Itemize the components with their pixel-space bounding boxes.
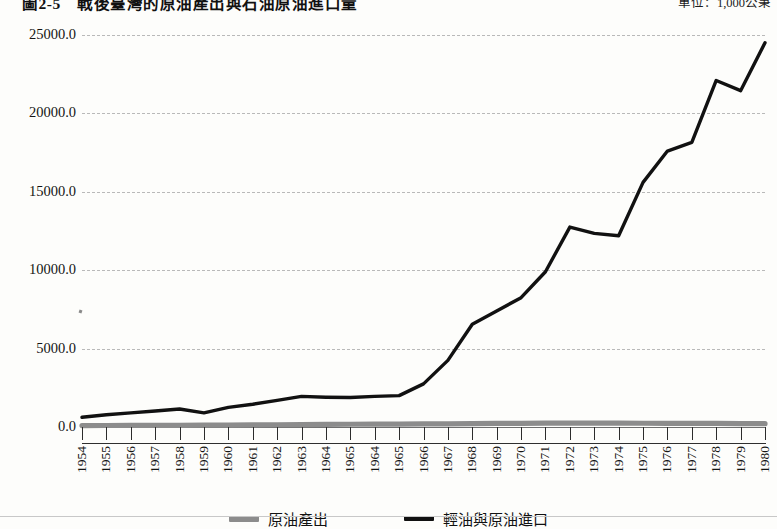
x-axis-label: 1958 (173, 446, 186, 473)
x-axis-tick (131, 427, 132, 440)
x-axis-tick (594, 427, 595, 440)
x-axis-label: 1971 (538, 446, 551, 473)
chart-legend: 原油產出輕油與原油進口 (0, 508, 777, 529)
x-axis-line (82, 443, 766, 444)
y-axis-label: 0.0 (2, 419, 76, 433)
figure-unit-label: 單位：1,000公秉 (678, 0, 771, 11)
x-axis-label: 1965 (343, 446, 356, 473)
x-axis-labels: 1954195519561957195819591960196119621963… (82, 446, 765, 502)
x-axis-tick (643, 427, 644, 440)
x-axis-label: 1961 (246, 446, 259, 473)
x-axis-label: 1962 (270, 446, 283, 473)
plot-area: 0.05000.010000.015000.020000.025000.0 (82, 35, 765, 427)
x-axis-tick (106, 427, 107, 440)
x-axis-ticks (82, 427, 765, 443)
x-axis-tick (302, 427, 303, 440)
x-axis-tick (277, 427, 278, 440)
x-axis-label: 1967 (441, 446, 454, 473)
x-axis-tick (448, 427, 449, 440)
x-axis-label: 1980 (758, 446, 771, 473)
x-axis-tick (180, 427, 181, 440)
legend-item-crude-oil-output[interactable]: 原油產出 (229, 508, 328, 529)
x-axis-tick (375, 427, 376, 440)
x-axis-tick (82, 427, 83, 440)
x-axis-label: 1955 (99, 446, 112, 473)
x-axis-label: 1957 (148, 446, 161, 473)
page-bottom-rule (0, 516, 777, 517)
y-axis-label: 10000.0 (2, 262, 76, 276)
x-axis-label: 1973 (587, 446, 600, 473)
x-axis-tick (204, 427, 205, 440)
x-axis-tick (765, 427, 766, 440)
x-axis-label: 1978 (709, 446, 722, 473)
figure-header: 圖2-5 戰後臺灣的原油產出與石油原油進口量 單位：1,000公秉 (0, 0, 777, 14)
x-axis-label: 1979 (734, 446, 747, 473)
legend-item-light-oil-crude-import[interactable]: 輕油與原油進口 (404, 508, 548, 529)
x-axis-tick (155, 427, 156, 440)
x-axis-label: 1975 (636, 446, 649, 473)
x-axis-label: 1972 (563, 446, 576, 473)
x-axis-tick (472, 427, 473, 440)
x-axis-label: 1956 (124, 446, 137, 473)
series-line-crude-oil-output (82, 423, 765, 426)
x-axis-tick (545, 427, 546, 440)
x-axis-tick (228, 427, 229, 440)
x-axis-label: 1959 (197, 446, 210, 473)
x-axis-tick (570, 427, 571, 440)
x-axis-tick (253, 427, 254, 440)
legend-label: 輕油與原油進口 (443, 508, 548, 529)
x-axis-label: 1968 (465, 446, 478, 473)
x-axis-label: 1976 (660, 446, 673, 473)
figure-title: 圖2-5 戰後臺灣的原油產出與石油原油進口量 (22, 0, 358, 13)
x-axis-label: 1977 (685, 446, 698, 473)
x-axis-label: 1963 (295, 446, 308, 473)
x-axis-label: 1954 (75, 446, 88, 473)
x-axis-tick (350, 427, 351, 440)
x-axis-label: 1965 (392, 446, 405, 473)
y-axis-label: 5000.0 (2, 341, 76, 355)
line-chart: 0.05000.010000.015000.020000.025000.0 19… (0, 14, 777, 523)
x-axis-tick (326, 427, 327, 440)
series-lines (82, 35, 765, 427)
x-axis-label: 1969 (490, 446, 503, 473)
x-axis-tick (741, 427, 742, 440)
x-axis-tick (424, 427, 425, 440)
legend-label: 原油產出 (268, 508, 328, 529)
y-axis-label: 25000.0 (2, 27, 76, 41)
x-axis-label: 1964 (319, 446, 332, 473)
x-axis-label: 1970 (514, 446, 527, 473)
x-axis-tick (497, 427, 498, 440)
x-axis-label: 1974 (612, 446, 625, 473)
x-axis-tick (667, 427, 668, 440)
series-line-light-oil-crude-import (82, 43, 765, 417)
y-axis-label: 20000.0 (2, 105, 76, 119)
x-axis-tick (619, 427, 620, 440)
x-axis-tick (716, 427, 717, 440)
x-axis-label: 1960 (221, 446, 234, 473)
y-axis-label: 15000.0 (2, 184, 76, 198)
x-axis-tick (692, 427, 693, 440)
x-axis-label: 1964 (368, 446, 381, 473)
x-axis-tick (399, 427, 400, 440)
x-axis-label: 1966 (417, 446, 430, 473)
x-axis-tick (521, 427, 522, 440)
